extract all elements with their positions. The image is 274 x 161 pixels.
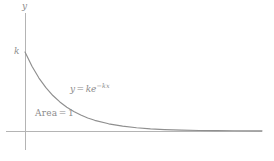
equation-exponent: −kx bbox=[96, 82, 109, 90]
area-value: 1 bbox=[68, 108, 74, 118]
exponential-density-figure: y k y=ke−kx Area=1 bbox=[0, 0, 274, 161]
area-equals-sign: = bbox=[57, 108, 68, 118]
curve-equation-label: y=ke−kx bbox=[70, 83, 110, 94]
plot-canvas bbox=[0, 0, 274, 161]
exponential-decay-curve bbox=[25, 52, 262, 131]
y-intercept-label: k bbox=[14, 47, 19, 56]
equation-equals-sign: = bbox=[75, 84, 86, 94]
area-annotation: Area=1 bbox=[35, 109, 74, 118]
area-text: Area bbox=[35, 108, 57, 118]
axes-group bbox=[6, 13, 262, 150]
curve-group bbox=[25, 52, 262, 131]
y-axis-label: y bbox=[22, 2, 27, 11]
